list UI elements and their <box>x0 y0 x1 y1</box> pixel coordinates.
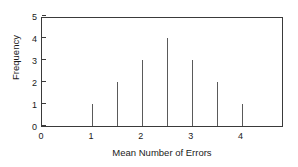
chart-bar <box>117 82 118 126</box>
plot-area <box>41 17 283 127</box>
y-axis-tick-label: 5 <box>23 13 37 22</box>
y-axis-tick-label: 3 <box>23 57 37 66</box>
y-axis-tick-label: 1 <box>23 101 37 110</box>
y-axis-tick <box>42 59 46 60</box>
x-axis-tick-label: 2 <box>131 131 151 141</box>
x-axis-tick-label: 3 <box>181 131 201 141</box>
chart-bar <box>192 60 193 126</box>
y-axis-tick <box>42 103 46 104</box>
y-axis-tick-label: 4 <box>23 35 37 44</box>
x-axis-title: Mean Number of Errors <box>41 147 283 158</box>
chart-bar <box>217 82 218 126</box>
chart-bar <box>92 104 93 126</box>
x-axis-tick-labels: 01234 <box>41 131 283 143</box>
x-axis-tick-label: 4 <box>231 131 251 141</box>
chart-bar <box>142 60 143 126</box>
chart-bar <box>242 104 243 126</box>
y-axis-title: Frequency <box>10 13 21 103</box>
x-axis-tick-label: 1 <box>81 131 101 141</box>
y-axis-tick-label: 2 <box>23 79 37 88</box>
y-axis-tick <box>42 15 46 16</box>
y-axis-tick <box>42 37 46 38</box>
chart-figure: Frequency 012345 01234 Mean Number of Er… <box>0 0 298 167</box>
y-axis-tick-labels: 012345 <box>22 17 37 127</box>
chart-bar <box>167 38 168 126</box>
x-axis-tick-label: 0 <box>31 131 51 141</box>
y-axis-tick <box>42 125 46 126</box>
y-axis-tick <box>42 81 46 82</box>
